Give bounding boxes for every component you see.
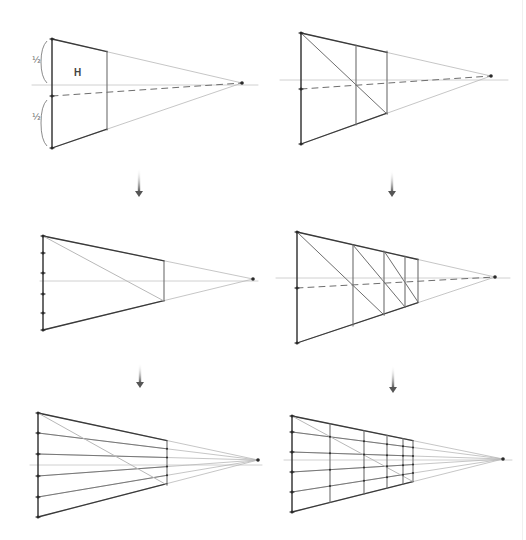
top-edge bbox=[38, 413, 167, 441]
guide-line bbox=[292, 452, 413, 456]
vanishing-point bbox=[251, 277, 255, 281]
guide-line bbox=[292, 432, 413, 447]
page-edge-line bbox=[522, 0, 523, 540]
intersection-dot bbox=[363, 480, 365, 482]
intersection-dot bbox=[363, 453, 365, 455]
vanishing-point bbox=[240, 81, 244, 85]
vanishing-point bbox=[256, 458, 260, 462]
intersection-dot bbox=[166, 457, 168, 459]
intersection-dot bbox=[386, 454, 388, 456]
guide-line bbox=[38, 454, 167, 458]
guide-line bbox=[292, 465, 413, 472]
guide-line bbox=[38, 433, 167, 449]
top-edge bbox=[297, 232, 418, 260]
half-brace bbox=[41, 41, 47, 83]
arrow-shaft bbox=[392, 365, 394, 388]
panel-step-1: ½½H bbox=[32, 38, 258, 150]
intersection-dot bbox=[412, 446, 414, 448]
bottom-edge bbox=[38, 484, 167, 517]
dashed-center-line bbox=[301, 76, 491, 89]
intersection-dot bbox=[166, 466, 168, 468]
arrow-head bbox=[136, 382, 144, 388]
arrow-shaft bbox=[138, 168, 140, 192]
intersection-dot bbox=[402, 474, 404, 476]
panel-step-6 bbox=[284, 415, 512, 514]
panel-step-3 bbox=[40, 235, 258, 332]
half-label: ½ bbox=[32, 55, 41, 65]
arrow-shaft bbox=[391, 170, 393, 192]
vanishing-point bbox=[493, 275, 497, 279]
panel-step-2 bbox=[280, 32, 508, 146]
bottom-edge bbox=[297, 303, 418, 343]
bottom-edge bbox=[52, 129, 107, 148]
down-arrow-icon bbox=[136, 363, 144, 388]
down-arrow-icon bbox=[135, 168, 143, 197]
intersection-dot bbox=[412, 472, 414, 474]
arrow-head bbox=[389, 387, 397, 393]
panels-group: ½½H bbox=[30, 32, 512, 519]
intersection-dot bbox=[363, 467, 365, 469]
vanishing-point bbox=[489, 74, 493, 78]
intersection-dot bbox=[329, 452, 331, 454]
diagonal-line bbox=[301, 33, 387, 114]
intersection-dot bbox=[412, 464, 414, 466]
half-label: ½ bbox=[32, 112, 41, 122]
diagonal-line bbox=[43, 236, 164, 301]
intersection-dot bbox=[329, 469, 331, 471]
intersection-dot bbox=[402, 445, 404, 447]
diagonal-line bbox=[297, 232, 384, 315]
top-edge bbox=[52, 39, 107, 52]
intersection-dot bbox=[386, 465, 388, 467]
panel-step-5 bbox=[30, 412, 262, 519]
diagram-canvas: ½½H bbox=[0, 0, 526, 540]
top-edge bbox=[301, 33, 387, 52]
intersection-dot bbox=[329, 485, 331, 487]
intersection-dot bbox=[402, 464, 404, 466]
intersection-dot bbox=[386, 476, 388, 478]
top-edge bbox=[43, 236, 164, 261]
intersection-dot bbox=[402, 455, 404, 457]
intersection-dot bbox=[329, 436, 331, 438]
horizon-label: H bbox=[74, 67, 81, 78]
intersection-dot bbox=[412, 455, 414, 457]
dashed-center-line bbox=[297, 277, 495, 288]
bottom-edge bbox=[43, 301, 164, 330]
bottom-edge bbox=[292, 482, 413, 512]
half-brace bbox=[41, 100, 47, 146]
intersection-dot bbox=[166, 448, 168, 450]
intersection-dot bbox=[363, 440, 365, 442]
bottom-edge bbox=[301, 113, 387, 144]
panel-step-4 bbox=[276, 231, 510, 345]
vanishing-point bbox=[501, 457, 505, 461]
intersection-dot bbox=[386, 443, 388, 445]
diagonal-line bbox=[292, 416, 413, 482]
arrow-head bbox=[388, 191, 396, 197]
guide-line bbox=[38, 475, 167, 497]
down-arrow-icon bbox=[388, 170, 396, 197]
arrow-shaft bbox=[139, 363, 141, 383]
arrow-head bbox=[135, 191, 143, 197]
perspective-division-diagram: ½½H bbox=[0, 0, 526, 540]
step-arrows-group bbox=[135, 168, 397, 393]
top-edge bbox=[292, 416, 413, 441]
down-arrow-icon bbox=[389, 365, 397, 393]
intersection-dot bbox=[166, 474, 168, 476]
guide-line bbox=[292, 473, 413, 492]
